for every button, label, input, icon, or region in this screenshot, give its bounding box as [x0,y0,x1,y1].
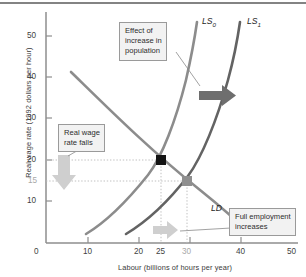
curve-label-ls1-sub: 1 [258,21,261,28]
callout-employment-line1: Full employment [235,212,291,222]
y-tick-label-50: 50 [27,31,36,40]
new-equilibrium-point [182,176,192,186]
curve-label-ls1: LS1 [247,16,261,28]
curve-label-ls0-sub: 0 [213,21,216,28]
x-tick-label-20: 20 [134,247,143,256]
x-tick-label-30: 30 [182,247,191,256]
y-tick-label-10: 10 [27,196,36,205]
callout-wage-line2: rate falls [64,138,100,148]
x-axis-title: Labour (billions of hours per year) [118,263,232,272]
x-tick-label-10: 10 [83,247,92,256]
callout-full-employment-increases: Full employment increases [229,208,296,236]
curve-label-ld: LD [211,203,222,213]
y-tick-label-40: 40 [27,72,36,81]
callout-employment-line2: increases [235,222,291,232]
x-tick-label-25: 25 [156,247,165,256]
economics-labour-market-chart: Real wage rate (1992 dollars per hour) L… [0,0,306,277]
y-axis-ticks [46,36,52,201]
callout-wage-line1: Real wage [64,128,100,138]
x-tick-label-50: 50 [287,247,296,256]
curve-label-ls1-text: LS [247,16,258,26]
shift-right-arrow-icon [199,85,236,106]
x-axis-ticks [88,237,241,243]
employment-increases-arrow-icon [153,221,178,239]
x-tick-label-0: 0 [34,247,39,256]
x-tick-label-40: 40 [236,247,245,256]
y-tick-label-20: 20 [27,155,36,164]
y-tick-label-30: 30 [27,113,36,122]
callout-population-line1: Effect of [125,26,162,36]
callout-population-increase: Effect of increase in population [119,22,167,61]
callout-real-wage-falls: Real wage rate falls [58,124,105,152]
curve-label-ls0: LS0 [202,16,216,28]
curve-label-ls0-text: LS [202,16,213,26]
initial-equilibrium-point [156,155,166,165]
callout-population-line3: population [125,46,162,56]
y-tick-label-15: 15 [28,176,37,185]
callout-population-line2: increase in [125,36,162,46]
